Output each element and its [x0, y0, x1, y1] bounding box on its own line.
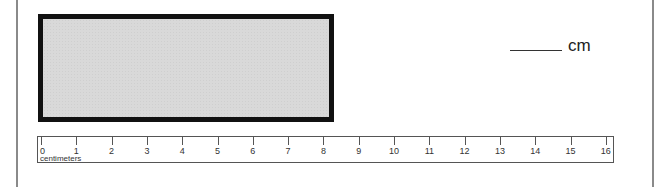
ruler-tick-label: 8	[321, 146, 326, 156]
rectangle-to-measure	[38, 14, 334, 122]
ruler-tick	[76, 137, 77, 145]
ruler-tick	[323, 137, 324, 145]
ruler-tick	[606, 137, 607, 145]
ruler-tick-label: 7	[286, 146, 291, 156]
ruler-tick-label: 11	[425, 146, 434, 156]
ruler-tick	[147, 137, 148, 145]
centimeter-ruler: 012345678910111213141516 centimeters	[37, 136, 614, 163]
ruler-unit-label: centimeters	[40, 154, 81, 163]
ruler-tick-label: 14	[530, 146, 540, 156]
answer-blank[interactable]	[510, 49, 562, 51]
ruler-tick	[359, 137, 360, 145]
ruler-tick-label: 4	[180, 146, 185, 156]
answer-field: cm	[510, 36, 591, 56]
answer-unit: cm	[568, 36, 591, 55]
ruler-tick-label: 2	[109, 146, 114, 156]
ruler-tick-label: 16	[601, 146, 611, 156]
ruler-tick-label: 9	[356, 146, 361, 156]
ruler-tick	[465, 137, 466, 145]
page-border-left	[16, 0, 18, 187]
ruler-tick	[218, 137, 219, 145]
page-border-right	[652, 0, 654, 187]
ruler-tick	[571, 137, 572, 145]
ruler-tick	[41, 137, 42, 145]
ruler-tick	[288, 137, 289, 145]
ruler-tick	[500, 137, 501, 145]
ruler-tick-label: 3	[144, 146, 149, 156]
ruler-tick	[535, 137, 536, 145]
ruler-tick-label: 10	[389, 146, 399, 156]
ruler-tick-label: 6	[250, 146, 255, 156]
ruler-tick	[112, 137, 113, 145]
ruler-tick-label: 5	[215, 146, 220, 156]
ruler-tick-label: 12	[460, 146, 470, 156]
ruler-tick	[253, 137, 254, 145]
ruler-tick-label: 15	[565, 146, 575, 156]
ruler-tick	[429, 137, 430, 145]
ruler-tick-label: 13	[495, 146, 505, 156]
ruler-tick	[394, 137, 395, 145]
ruler-tick	[182, 137, 183, 145]
